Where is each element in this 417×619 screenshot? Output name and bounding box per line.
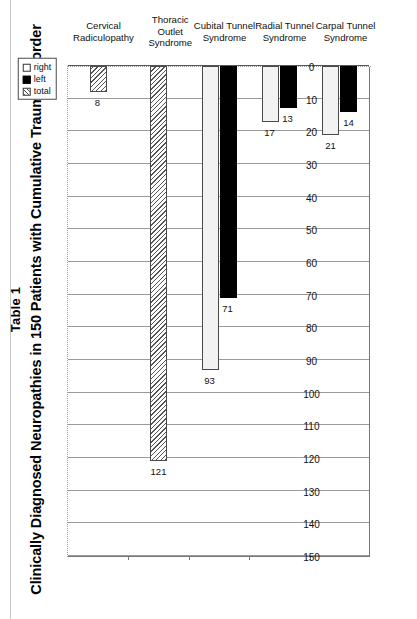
value-tick-100: 100: [292, 388, 332, 399]
bar-value-label: 121: [145, 466, 171, 477]
value-tick-40: 40: [292, 192, 332, 203]
category-tick: [189, 556, 190, 560]
category-label-line: Syndrome: [290, 31, 400, 43]
value-tick-140: 140: [292, 519, 332, 530]
legend-item-right: right: [23, 62, 52, 73]
open-square-swatch: [23, 63, 31, 71]
hatched-square-swatch: [23, 87, 31, 95]
value-tick-90: 90: [292, 356, 332, 367]
legend-label: left: [34, 75, 46, 84]
category-tick: [128, 556, 129, 560]
bar-value-label: 93: [197, 374, 223, 385]
value-tick-10: 10: [292, 94, 332, 105]
bar-value-label: 21: [317, 139, 343, 150]
category-label-line: Carpal Tunnel: [290, 20, 400, 32]
value-tick-50: 50: [292, 225, 332, 236]
category-tick: [249, 556, 250, 560]
legend-label: total: [34, 87, 51, 96]
legend-item-left: left: [23, 74, 52, 85]
bar-left: [340, 66, 357, 112]
value-tick-0: 0: [292, 62, 332, 73]
value-tick-80: 80: [292, 323, 332, 334]
value-tick-110: 110: [292, 421, 332, 432]
filled-square-swatch: [23, 75, 31, 83]
value-tick-130: 130: [292, 486, 332, 497]
bar-right: [202, 66, 219, 370]
chart-figure: Table 1 Clinically Diagnosed Neuropathie…: [0, 0, 417, 619]
bar-value-label: 8: [85, 97, 111, 108]
bar-left: [220, 66, 237, 298]
rotated-page-wrapper: Table 1 Clinically Diagnosed Neuropathie…: [0, 0, 417, 619]
bar-value-label: 14: [335, 116, 361, 127]
chart-legend: rightlefttotal: [18, 58, 57, 100]
category-label: Carpal TunnelSyndrome: [290, 20, 400, 43]
value-tick-70: 70: [292, 290, 332, 301]
value-tick-60: 60: [292, 258, 332, 269]
legend-label: right: [34, 63, 52, 72]
value-tick-150: 150: [292, 552, 332, 563]
bar-total: [90, 66, 107, 92]
value-tick-30: 30: [292, 160, 332, 171]
bar-value-label: 17: [257, 126, 283, 137]
legend-item-total: total: [23, 86, 52, 97]
bar-value-label: 71: [215, 302, 241, 313]
value-tick-20: 20: [292, 127, 332, 138]
value-tick-120: 120: [292, 454, 332, 465]
bar-value-label: 13: [275, 113, 301, 124]
bar-total: [150, 66, 167, 461]
